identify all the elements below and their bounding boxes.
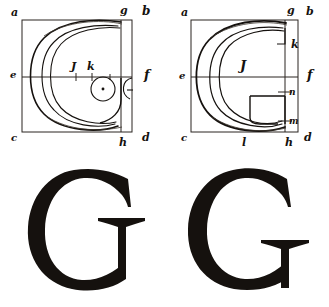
label-d: d — [142, 131, 150, 144]
label-i: J — [237, 58, 247, 73]
construction-frame-right — [191, 20, 298, 132]
spur-center-dot — [102, 88, 104, 90]
label-d: d — [304, 131, 312, 144]
label-m: m — [289, 116, 299, 126]
label-a: a — [181, 6, 188, 19]
letter-g-shape-right — [188, 168, 309, 290]
label-a: a — [11, 6, 18, 19]
label-c: c — [11, 132, 17, 143]
label-e: e — [10, 69, 16, 80]
label-k: k — [87, 60, 95, 73]
label-e: e — [179, 70, 185, 81]
letter-construction-plate: a g b e J k f c h d — [0, 0, 329, 307]
label-g: g — [287, 4, 295, 17]
label-k: k — [291, 38, 299, 51]
label-l: l — [242, 136, 246, 149]
label-b: b — [306, 5, 314, 18]
label-g: g — [120, 4, 128, 17]
finished-letter-left — [0, 155, 164, 307]
label-i: J — [69, 60, 77, 73]
label-h: h — [285, 136, 293, 149]
label-n: n — [289, 87, 296, 97]
finished-letter-right — [165, 155, 329, 307]
label-h: h — [119, 136, 127, 149]
bounding-square — [191, 20, 298, 132]
label-f: f — [143, 67, 152, 82]
construction-diagram-right: a g b k e J f n m c l h d — [165, 0, 329, 155]
label-c: c — [181, 132, 187, 143]
terminal-arc — [123, 78, 132, 99]
label-b: b — [142, 4, 150, 18]
letter-g-shape-left — [28, 169, 145, 291]
construction-diagram-left: a g b e J k f c h d — [0, 0, 164, 155]
bowl-inner-arc — [42, 25, 118, 126]
label-f: f — [306, 67, 315, 82]
spur-bracket — [250, 96, 285, 124]
